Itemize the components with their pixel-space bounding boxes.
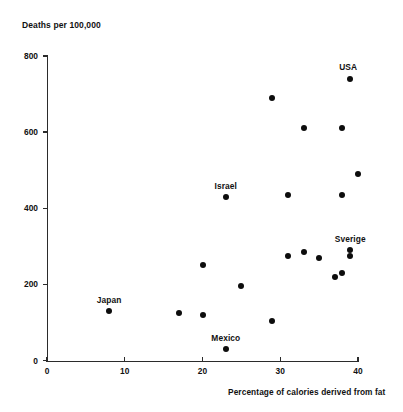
x-axis-tick-label: 10	[113, 366, 137, 376]
y-axis-tick-label: 600	[10, 127, 38, 137]
point-label-japan: Japan	[97, 295, 122, 305]
data-point-israel[interactable]	[223, 194, 229, 200]
data-point[interactable]	[269, 318, 275, 324]
scatter-chart: Deaths per 100,000 020040060080001020304…	[0, 0, 403, 412]
plot-area: 0200400600800010203040JapanMexicoIsraelS…	[0, 0, 403, 412]
data-point[interactable]	[269, 95, 275, 101]
x-axis-tick	[46, 357, 47, 362]
y-axis-tick-label: 0	[10, 356, 38, 366]
data-point[interactable]	[176, 310, 182, 316]
x-axis-tick	[124, 357, 125, 362]
data-point[interactable]	[200, 312, 206, 318]
y-axis-tick-label: 800	[10, 51, 38, 61]
data-point-japan[interactable]	[106, 308, 112, 314]
data-point[interactable]	[316, 255, 322, 261]
y-axis-tick-label: 200	[10, 279, 38, 289]
data-point[interactable]	[339, 125, 345, 131]
data-point[interactable]	[347, 253, 353, 259]
x-axis-tick-label: 0	[35, 366, 59, 376]
data-point[interactable]	[285, 192, 291, 198]
data-point-mexico[interactable]	[223, 346, 229, 352]
x-axis-tick	[280, 357, 281, 362]
data-point[interactable]	[238, 283, 244, 289]
x-axis-title: Percentage of calories derived from fat	[228, 387, 385, 397]
y-axis-tick	[43, 131, 48, 132]
point-label-mexico: Mexico	[211, 333, 240, 343]
x-axis-tick	[202, 357, 203, 362]
y-axis-tick	[43, 284, 48, 285]
x-axis-tick-label: 40	[346, 366, 370, 376]
y-axis-tick	[43, 208, 48, 209]
point-label-israel: Israel	[215, 181, 238, 191]
x-axis-tick	[357, 357, 358, 362]
data-point[interactable]	[339, 192, 345, 198]
point-label-usa: USA	[339, 62, 357, 72]
point-label-sverige: Sverige	[335, 234, 366, 244]
data-point[interactable]	[200, 262, 206, 268]
data-point[interactable]	[301, 249, 307, 255]
y-axis-tick	[43, 55, 48, 56]
data-point[interactable]	[332, 274, 338, 280]
data-point-usa[interactable]	[347, 76, 353, 82]
data-point[interactable]	[285, 253, 291, 259]
data-point[interactable]	[301, 125, 307, 131]
data-point[interactable]	[339, 270, 345, 276]
y-axis-tick-label: 400	[10, 203, 38, 213]
y-axis-line	[47, 56, 48, 362]
data-point[interactable]	[355, 171, 361, 177]
x-axis-tick-label: 30	[268, 366, 292, 376]
x-axis-tick-label: 20	[191, 366, 215, 376]
